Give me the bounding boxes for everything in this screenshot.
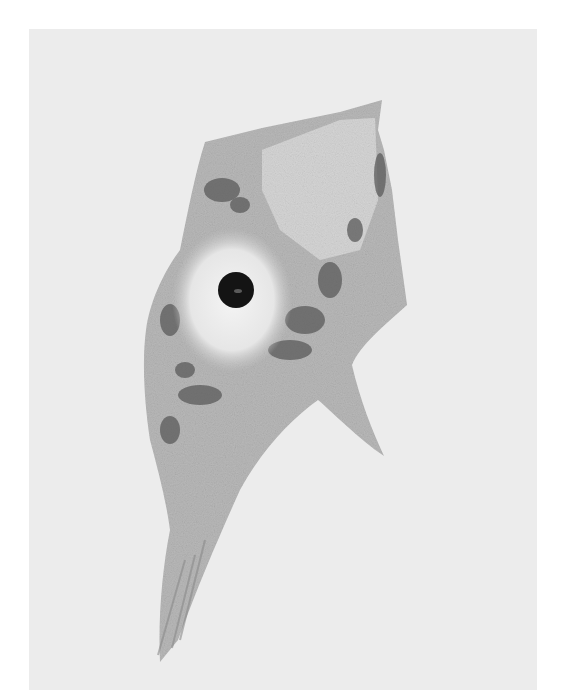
- cell-illustration: [0, 0, 566, 700]
- nucleolus-highlight: [234, 289, 242, 293]
